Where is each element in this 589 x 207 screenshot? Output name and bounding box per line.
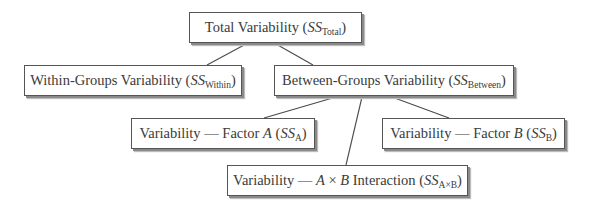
factor-symbol: A (263, 125, 272, 141)
ss-subscript: Within (205, 80, 231, 90)
ss-symbol: SS (424, 172, 439, 188)
factor-symbol: A (316, 172, 325, 188)
edge-between-interaction (346, 97, 362, 165)
edge-total-within (207, 44, 246, 65)
node-between-groups-variability: Between-Groups Variability (SSBetween) (274, 65, 514, 96)
node-label: Variability — Factor B (SSB) (390, 125, 557, 143)
node-total-variability: Total Variability (SSTotal) (189, 12, 362, 43)
node-label: Variability — Factor A (SSA) (139, 125, 306, 143)
ss-symbol: SS (453, 72, 468, 88)
ss-symbol: SS (280, 125, 295, 141)
node-label: Total Variability (SSTotal) (205, 19, 346, 37)
edge-between-factor-b (392, 97, 449, 118)
factor-symbol: B (514, 125, 523, 141)
ss-subscript: Between (468, 80, 501, 90)
node-interaction-variability: Variability — A × B Interaction (SSA×B) (227, 165, 468, 196)
node-within-groups-variability: Within-Groups Variability (SSWithin) (24, 65, 242, 96)
ss-subscript: A×B (439, 180, 458, 190)
ss-symbol: SS (307, 19, 322, 35)
ss-symbol: SS (190, 72, 205, 88)
ss-subscript: A (295, 133, 302, 143)
ss-subscript: Total (322, 27, 341, 37)
node-label: Between-Groups Variability (SSBetween) (282, 72, 506, 90)
node-factor-a-variability: Variability — Factor A (SSA) (131, 118, 315, 149)
node-label: Variability — A × B Interaction (SSA×B) (233, 172, 462, 190)
node-label: Within-Groups Variability (SSWithin) (30, 72, 236, 90)
edge-total-between (276, 44, 313, 65)
ss-symbol: SS (531, 125, 546, 141)
node-factor-b-variability: Variability — Factor B (SSB) (382, 118, 565, 149)
edge-between-factor-a (264, 97, 336, 118)
factor-symbol: B (340, 172, 349, 188)
